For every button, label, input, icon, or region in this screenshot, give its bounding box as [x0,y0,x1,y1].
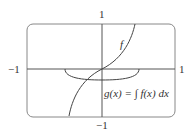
x-min-label: −1 [8,63,20,75]
g-label: g(x) = ∫ f(x) dx [104,87,169,100]
y-max-label: 1 [99,8,105,20]
y-min-label: −1 [96,119,108,131]
plot-frame [27,24,175,117]
chart: 1 −1 −1 1 f g(x) = ∫ f(x) dx [0,0,194,136]
f-label: f [120,38,125,50]
x-max-label: 1 [179,63,185,75]
